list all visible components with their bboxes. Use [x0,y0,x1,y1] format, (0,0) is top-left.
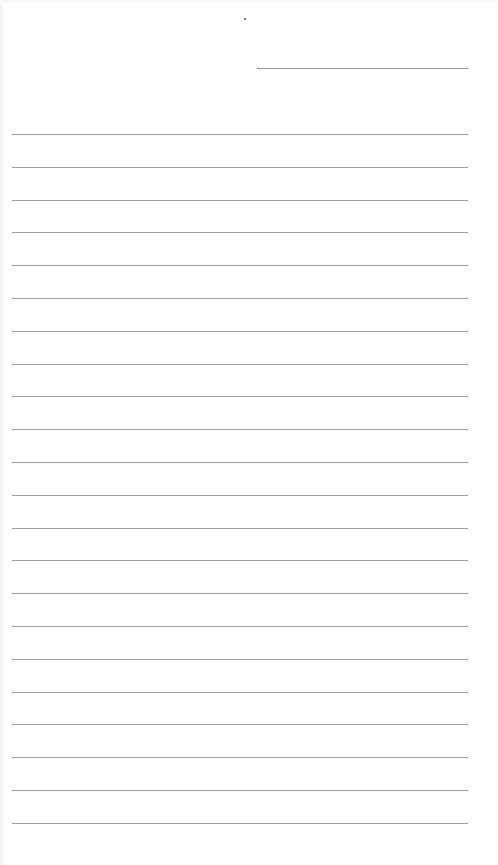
ruled-line[interactable] [12,528,468,529]
ruled-line[interactable] [12,200,468,201]
ruled-line[interactable] [12,659,468,660]
ruled-line[interactable] [12,331,468,332]
scan-edge-shadow [0,0,6,865]
ruled-line[interactable] [12,495,468,496]
ruled-line[interactable] [12,396,468,397]
ruled-line[interactable] [12,232,468,233]
ruled-line[interactable] [12,593,468,594]
scan-top-shadow [0,0,498,4]
ruled-line[interactable] [12,724,468,725]
ruled-line[interactable] [12,757,468,758]
ruled-line[interactable] [12,167,468,168]
ruled-line[interactable] [12,134,468,135]
ruled-line[interactable] [12,560,468,561]
ruled-line[interactable] [12,265,468,266]
ruled-line[interactable] [12,692,468,693]
ruled-line[interactable] [12,462,468,463]
ruled-line[interactable] [12,790,468,791]
ruled-line[interactable] [12,626,468,627]
ruled-line[interactable] [12,429,468,430]
scan-speck [244,18,246,20]
ruled-line[interactable] [12,823,468,824]
lined-paper-page [0,0,498,865]
ruled-line[interactable] [12,298,468,299]
ruled-line[interactable] [12,364,468,365]
date-line[interactable] [257,68,468,69]
